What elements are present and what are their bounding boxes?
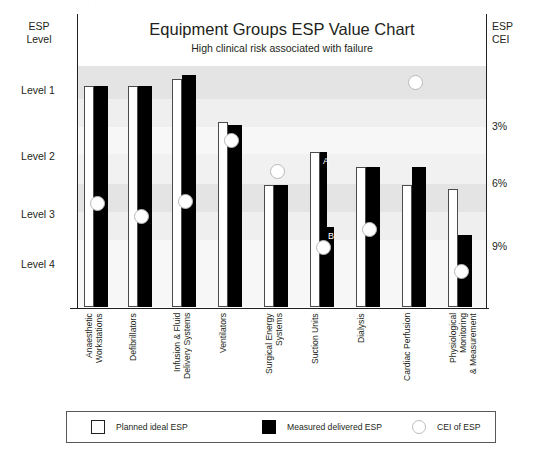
x-axis-category-label: Physiological Monitoring & Measurement	[448, 313, 478, 405]
cei-marker	[90, 196, 105, 211]
left-axis-title-line2: Level	[8, 33, 70, 46]
chart-legend: Planned ideal ESPMeasured delivered ESPC…	[66, 411, 496, 443]
left-axis-title-line1: ESP	[8, 20, 70, 33]
right-axis-title-line2: CEI	[492, 33, 554, 46]
x-axis-category-label: Ventilators	[218, 313, 228, 405]
x-axis-category-label: Infusion & Fluid Delivery Systems	[172, 313, 192, 405]
plot-area: AB	[78, 14, 486, 307]
x-axis-category-label: Defibrillators	[128, 313, 138, 405]
legend-item: Planned ideal ESP	[91, 412, 188, 442]
cei-marker	[224, 133, 239, 148]
cei-marker	[178, 194, 193, 209]
x-axis-category-label: Dialysis	[356, 313, 366, 405]
watermark-text: · · · · · ·· ·	[60, 0, 290, 12]
legend-swatch-solid-square-icon	[262, 420, 276, 434]
legend-swatch-open-square-icon	[91, 420, 105, 434]
y-axis-left-tick-label: Level 2	[6, 150, 70, 162]
y-axis-right-tick-label: 9%	[492, 240, 540, 252]
legend-label: Measured delivered ESP	[287, 422, 382, 432]
cei-marker	[454, 264, 469, 279]
legend-label: CEI of ESP	[437, 422, 480, 432]
x-axis-category-label: Surgical Energy Systems	[264, 313, 284, 405]
y-axis-right-line	[486, 14, 487, 309]
y-axis-right-tick-label: 3%	[492, 120, 540, 132]
legend-item: CEI of ESP	[412, 412, 480, 442]
cei-marker	[134, 209, 149, 224]
y-axis-left-tick-label: Level 1	[6, 84, 70, 96]
right-axis-title-line1: ESP	[492, 20, 554, 33]
legend-label: Planned ideal ESP	[116, 422, 188, 432]
x-axis-category-label: Cardiac Perfusion	[402, 313, 412, 405]
cei-marker	[408, 75, 423, 90]
x-axis-line	[70, 308, 489, 309]
y-axis-right-tick-label: 6%	[492, 177, 540, 189]
y-axis-left-tick-label: Level 3	[6, 208, 70, 220]
cei-marker	[362, 222, 377, 237]
legend-item: Measured delivered ESP	[262, 412, 382, 442]
cei-markers-layer	[78, 14, 486, 307]
legend-swatch-open-circle-icon	[412, 420, 426, 434]
left-axis-title: ESP Level	[8, 20, 70, 46]
right-axis-title: ESP CEI	[492, 20, 554, 46]
cei-marker	[316, 240, 331, 255]
cei-marker	[270, 164, 285, 179]
esp-value-chart-figure: · · · · · ·· · Equipment Groups ESP Valu…	[0, 0, 560, 451]
x-axis-category-label: Suction Units	[310, 313, 320, 405]
x-axis-category-label: Anaesthetic Workstations	[84, 313, 104, 405]
y-axis-left-tick-label: Level 4	[6, 258, 70, 270]
y-axis-left-line	[77, 14, 78, 309]
